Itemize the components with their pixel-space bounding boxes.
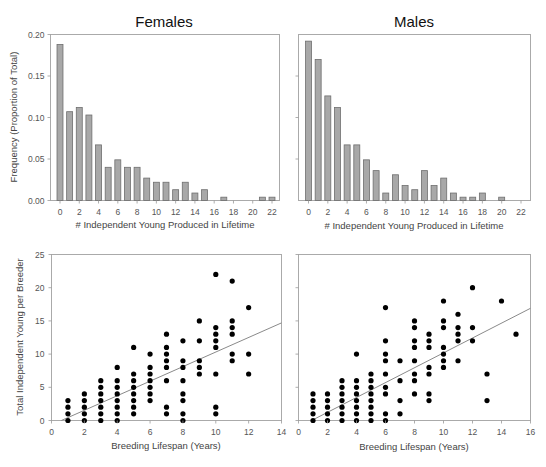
data-point bbox=[310, 391, 315, 396]
x-tick-label: 6 bbox=[364, 207, 369, 217]
data-point bbox=[131, 345, 136, 350]
data-point bbox=[164, 352, 169, 357]
histogram-bar bbox=[115, 160, 121, 201]
data-point bbox=[246, 352, 251, 357]
histogram-bar bbox=[363, 160, 369, 201]
histogram-bar bbox=[431, 186, 437, 201]
females-histogram-frame bbox=[51, 35, 280, 201]
x-tick-label: 8 bbox=[412, 427, 417, 437]
histogram-bar bbox=[479, 193, 485, 200]
data-point bbox=[339, 411, 344, 416]
x-tick-label: 10 bbox=[400, 207, 410, 217]
data-point bbox=[180, 338, 185, 343]
data-point bbox=[213, 411, 218, 416]
data-point bbox=[383, 352, 388, 357]
data-point bbox=[82, 405, 87, 410]
y-tick-label: 0.00 bbox=[28, 196, 45, 206]
histogram-bar bbox=[344, 145, 350, 201]
x-tick-label: 16 bbox=[209, 207, 219, 217]
data-point bbox=[412, 378, 417, 383]
histogram-bar bbox=[499, 197, 505, 200]
scatter-ylabel: Total Independent Young per Breeder bbox=[14, 258, 25, 415]
data-point bbox=[368, 418, 373, 423]
x-tick-label: 10 bbox=[152, 207, 162, 217]
data-point bbox=[197, 371, 202, 376]
data-point bbox=[147, 352, 152, 357]
x-tick-label: 8 bbox=[181, 427, 186, 437]
data-point bbox=[383, 391, 388, 396]
data-point bbox=[82, 391, 87, 396]
data-point bbox=[82, 411, 87, 416]
data-point bbox=[180, 365, 185, 370]
data-point bbox=[230, 325, 235, 330]
histogram-bar bbox=[163, 182, 169, 200]
data-point bbox=[115, 391, 120, 396]
data-point bbox=[455, 325, 460, 330]
data-point bbox=[164, 358, 169, 363]
data-point bbox=[164, 405, 169, 410]
histogram-bar bbox=[450, 193, 456, 200]
females-histogram: 02468101214161820220.000.050.100.150.20 bbox=[28, 30, 277, 217]
x-tick-label: 6 bbox=[148, 427, 153, 437]
data-point bbox=[325, 398, 330, 403]
histogram-bar bbox=[383, 193, 389, 200]
data-point bbox=[339, 385, 344, 390]
histogram-bar bbox=[173, 190, 179, 201]
x-tick-label: 18 bbox=[229, 207, 239, 217]
data-point bbox=[339, 405, 344, 410]
data-point bbox=[412, 338, 417, 343]
histogram-bar bbox=[412, 190, 418, 201]
x-tick-label: 2 bbox=[82, 427, 87, 437]
data-point bbox=[368, 391, 373, 396]
histogram-bar bbox=[421, 171, 427, 201]
data-point bbox=[98, 378, 103, 383]
figure: Females Males 02468101214161820220.000.0… bbox=[0, 0, 546, 467]
females-title: Females bbox=[135, 13, 193, 30]
data-point bbox=[197, 318, 202, 323]
data-point bbox=[339, 418, 344, 423]
x-tick-label: 14 bbox=[277, 427, 287, 437]
data-point bbox=[412, 371, 417, 376]
data-point bbox=[441, 365, 446, 370]
data-point bbox=[441, 325, 446, 330]
x-tick-label: 4 bbox=[96, 207, 101, 217]
data-point bbox=[412, 318, 417, 323]
x-tick-label: 2 bbox=[325, 427, 330, 437]
data-point bbox=[115, 398, 120, 403]
data-point bbox=[397, 398, 402, 403]
data-point bbox=[412, 325, 417, 330]
data-point bbox=[65, 398, 70, 403]
females-scatter: 024681012140510152025 bbox=[35, 250, 286, 437]
x-tick-label: 18 bbox=[478, 207, 488, 217]
data-point bbox=[115, 405, 120, 410]
y-tick-label: 0.05 bbox=[28, 154, 45, 164]
x-tick-label: 6 bbox=[383, 427, 388, 437]
data-point bbox=[230, 318, 235, 323]
data-point bbox=[98, 411, 103, 416]
data-point bbox=[368, 411, 373, 416]
data-point bbox=[426, 338, 431, 343]
data-point bbox=[354, 411, 359, 416]
data-point bbox=[368, 405, 373, 410]
data-point bbox=[164, 332, 169, 337]
data-point bbox=[65, 418, 70, 423]
histogram-bar bbox=[182, 182, 188, 200]
data-point bbox=[383, 371, 388, 376]
data-point bbox=[383, 305, 388, 310]
data-point bbox=[115, 411, 120, 416]
data-point bbox=[455, 332, 460, 337]
data-point bbox=[147, 385, 152, 390]
data-point bbox=[397, 378, 402, 383]
data-point bbox=[310, 398, 315, 403]
data-point bbox=[98, 391, 103, 396]
data-point bbox=[131, 405, 136, 410]
x-tick-label: 12 bbox=[420, 207, 430, 217]
x-tick-label: 6 bbox=[115, 207, 120, 217]
data-point bbox=[368, 371, 373, 376]
data-point bbox=[164, 365, 169, 370]
data-point bbox=[484, 398, 489, 403]
data-point bbox=[147, 398, 152, 403]
data-point bbox=[213, 371, 218, 376]
histogram-bar bbox=[402, 186, 408, 201]
x-tick-label: 22 bbox=[516, 207, 526, 217]
